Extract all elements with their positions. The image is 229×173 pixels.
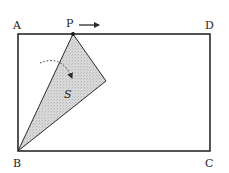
vertex-label-a: A (12, 19, 22, 32)
point-label-p: P (66, 17, 74, 30)
vertex-label-c: C (205, 157, 213, 170)
region-label-s: S (64, 88, 72, 101)
shaded-region-s (18, 34, 106, 151)
vertex-label-b: B (13, 157, 21, 170)
vertex-label-d: D (205, 19, 214, 32)
point-p-dot (71, 32, 75, 36)
geometry-diagram: A P D B C S (0, 0, 229, 173)
